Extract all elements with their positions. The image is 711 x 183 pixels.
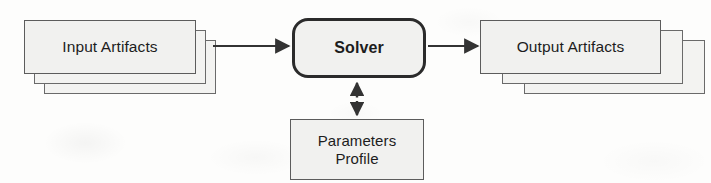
input-artifacts-front-box[interactable]: Input Artifacts bbox=[24, 20, 196, 74]
input-artifacts-label: Input Artifacts bbox=[62, 38, 157, 56]
node-solver[interactable]: Solver bbox=[292, 18, 426, 78]
output-artifacts-label: Output Artifacts bbox=[517, 38, 625, 56]
output-artifacts-front-box[interactable]: Output Artifacts bbox=[480, 20, 661, 74]
diagram-canvas: Input Artifacts Solver Output Artifacts … bbox=[0, 0, 711, 183]
parameters-profile-label: Parameters Profile bbox=[318, 132, 397, 167]
node-parameters-profile[interactable]: Parameters Profile bbox=[290, 119, 424, 180]
solver-label: Solver bbox=[334, 39, 384, 58]
